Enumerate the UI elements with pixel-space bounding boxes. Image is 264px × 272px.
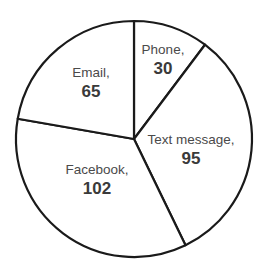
slice-label-phone: Phone, 30 bbox=[142, 43, 185, 77]
slice-name-text-message: Text message, bbox=[147, 133, 234, 147]
slice-name-email: Email, bbox=[72, 66, 110, 80]
slice-value-facebook: 102 bbox=[65, 180, 128, 197]
slice-label-facebook: Facebook, 102 bbox=[65, 163, 128, 197]
slice-name-phone: Phone, bbox=[142, 43, 185, 57]
slice-value-email: 65 bbox=[72, 83, 110, 100]
slice-label-email: Email, 65 bbox=[72, 66, 110, 100]
slice-name-facebook: Facebook, bbox=[65, 163, 128, 177]
slice-value-text-message: 95 bbox=[147, 150, 234, 167]
slice-label-text-message: Text message, 95 bbox=[147, 133, 234, 167]
slice-value-phone: 30 bbox=[142, 60, 185, 77]
